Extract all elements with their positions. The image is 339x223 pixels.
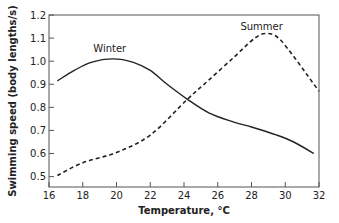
x-tick-label: 16 [43,190,56,201]
x-tick-label: 22 [144,190,157,201]
y-tick-label: 1.2 [30,10,46,21]
y-tick-label: 0.6 [30,148,46,159]
x-axis: 161820222426283032 [43,182,326,201]
x-axis-title: Temperature, °C [138,205,230,216]
x-tick-label: 28 [245,190,258,201]
y-tick-label: 1.0 [30,56,46,67]
y-tick-label: 0.9 [30,79,46,90]
y-tick-label: 1.1 [30,33,46,44]
y-axis-title: Swimming speed (body lengths/s) [7,5,18,196]
x-tick-label: 18 [76,190,89,201]
x-tick-label: 26 [211,190,224,201]
series-label-summer: Summer [240,21,283,32]
line-chart: 0.50.60.70.80.91.01.11.2 161820222426283… [0,0,339,223]
y-tick-label: 0.5 [30,171,46,182]
series-layer: WinterSummer [57,21,319,175]
series-line-winter [57,59,314,154]
x-tick-label: 32 [313,190,326,201]
x-tick-label: 20 [110,190,123,201]
series-label-winter: Winter [93,43,127,54]
x-tick-label: 30 [279,190,292,201]
series-line-summer [57,34,319,176]
y-tick-label: 0.7 [30,125,46,136]
y-axis: 0.50.60.70.80.91.01.11.2 [30,10,54,183]
y-tick-label: 0.8 [30,102,46,113]
x-tick-label: 24 [178,190,191,201]
